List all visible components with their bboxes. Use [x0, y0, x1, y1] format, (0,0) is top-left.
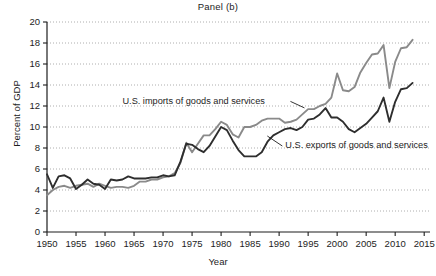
x-tick-label: 2010 [385, 238, 406, 249]
annotation-leader-exports [267, 136, 282, 146]
y-tick-label: 4 [35, 184, 40, 195]
chart-figure: Panel (b) Percent of GDP Year 0246810121… [0, 0, 436, 276]
series-line [47, 40, 413, 195]
y-tick-label: 6 [35, 163, 40, 174]
y-tick-label: 14 [29, 79, 40, 90]
y-tick-label: 0 [35, 226, 40, 237]
x-tick-label: 1985 [240, 238, 261, 249]
series-annotations: U.S. imports of goods and servicesU.S. e… [122, 96, 428, 150]
x-tick-label: 1980 [211, 238, 232, 249]
y-axis-label: Percent of GDP [11, 54, 22, 174]
y-tick-label: 20 [29, 16, 40, 27]
y-tick-label: 2 [35, 205, 40, 216]
x-tick-label: 1995 [298, 238, 319, 249]
x-tick-label: 1960 [94, 238, 115, 249]
y-tick-label: 16 [29, 58, 40, 69]
x-tick-label: 1990 [269, 238, 290, 249]
x-tick-label: 2005 [356, 238, 377, 249]
annotation-exports: U.S. exports of goods and services [285, 140, 428, 150]
annotation-imports: U.S. imports of goods and services [122, 96, 265, 106]
x-tick-label: 1955 [65, 238, 86, 249]
x-axis-ticks: 1950195519601965197019751980198519901995… [36, 232, 434, 249]
data-series [47, 40, 413, 195]
chart-title: Panel (b) [0, 1, 436, 12]
x-tick-label: 2000 [327, 238, 348, 249]
y-tick-label: 12 [29, 100, 40, 111]
y-tick-label: 8 [35, 142, 40, 153]
x-tick-label: 1970 [152, 238, 173, 249]
y-tick-label: 18 [29, 37, 40, 48]
x-tick-label: 1950 [36, 238, 57, 249]
y-axis-ticks: 02468101214161820 [29, 16, 47, 237]
annotation-leader-imports [290, 101, 304, 108]
line-chart-plot: 02468101214161820 1950195519601965197019… [0, 0, 436, 276]
x-tick-label: 1965 [123, 238, 144, 249]
y-tick-label: 10 [29, 121, 40, 132]
x-tick-label: 1975 [182, 238, 203, 249]
x-tick-label: 2015 [414, 238, 435, 249]
x-axis-label: Year [0, 256, 436, 267]
